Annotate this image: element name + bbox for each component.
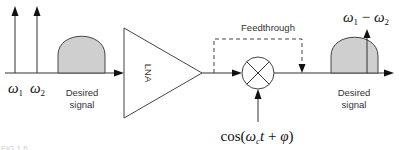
output-signal-label-line1: Desired bbox=[338, 87, 371, 98]
output-signal-label-line2: signal bbox=[342, 99, 367, 110]
lna-label: LNA bbox=[143, 64, 154, 83]
lo-input-arrow-icon bbox=[255, 89, 262, 99]
input-signal-label-line2: signal bbox=[70, 99, 95, 110]
tone2-arrow-icon bbox=[34, 6, 41, 16]
mixer: cos(ωct + φ) bbox=[220, 57, 293, 146]
intermod-arrow-icon bbox=[364, 29, 371, 38]
output-desired-signal-shape bbox=[331, 37, 378, 73]
input-desired-signal-shape bbox=[58, 36, 105, 73]
lo-label: cos(ωct + φ) bbox=[220, 128, 293, 146]
input-spectrum: ω1 ω2 Desired signal bbox=[5, 6, 124, 110]
feedthrough-label: Feedthrough bbox=[241, 22, 295, 33]
tone1-arrow-icon bbox=[12, 6, 19, 16]
rf-receiver-feedthrough-diagram: ω1 ω2 Desired signal LNA Feedthrough cos… bbox=[0, 0, 399, 150]
intermod-label: ω1 − ω2 bbox=[343, 9, 389, 27]
lna-triangle bbox=[124, 28, 202, 118]
figure-caption: FIG 1.6 bbox=[1, 144, 28, 150]
tone2-label: ω2 bbox=[30, 80, 45, 98]
feedthrough-arrow-icon bbox=[299, 64, 306, 73]
input-signal-label-line1: Desired bbox=[66, 87, 99, 98]
output-axis-arrow-icon bbox=[384, 70, 394, 77]
tone1-label: ω1 bbox=[8, 80, 23, 98]
input-axis-arrow-icon bbox=[114, 70, 124, 77]
mixer-input-arrow-icon bbox=[232, 70, 242, 77]
lna-amplifier: LNA bbox=[124, 28, 202, 118]
